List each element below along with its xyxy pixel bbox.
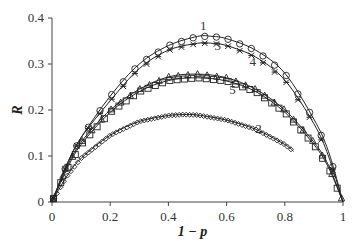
x-tick-label: 0.6 <box>218 209 235 224</box>
curve-label-4: 4 <box>250 54 257 69</box>
x-tick-label: 0.2 <box>102 209 118 224</box>
curve-label-5: 5 <box>229 82 236 97</box>
marker-asterisk <box>109 96 115 102</box>
y-tick-label: 0.4 <box>28 10 45 25</box>
marker-asterisk <box>120 84 126 90</box>
marker-asterisk <box>237 48 243 54</box>
x-tick-label: 1 <box>340 209 347 224</box>
y-tick-label: 0.3 <box>28 56 44 71</box>
marker-square <box>181 76 187 82</box>
series-line <box>52 43 343 202</box>
series-group <box>50 33 344 202</box>
marker-asterisk <box>178 44 184 50</box>
marker-asterisk <box>190 42 196 48</box>
series-4 <box>50 71 344 202</box>
marker-asterisk <box>225 43 231 49</box>
series-3 <box>50 41 343 203</box>
marker-asterisk <box>155 54 161 60</box>
marker-asterisk <box>132 71 138 77</box>
chart: 00.20.40.60.8100.10.20.30.41 − pR 13452 <box>0 0 359 241</box>
x-tick-label: 0.8 <box>277 209 293 224</box>
axes: 00.20.40.60.8100.10.20.30.41 − pR <box>10 10 346 239</box>
curve-label-2: 2 <box>255 121 262 136</box>
x-tick-label: 0.4 <box>160 209 177 224</box>
series-line <box>52 74 343 202</box>
y-axis-title: R <box>10 105 25 115</box>
y-tick-label: 0 <box>38 194 45 209</box>
marker-asterisk <box>202 41 208 47</box>
marker-asterisk <box>283 79 289 85</box>
marker-square <box>211 77 217 83</box>
y-tick-label: 0.1 <box>28 148 44 163</box>
marker-asterisk <box>144 61 150 67</box>
marker-circle <box>202 33 208 39</box>
x-tick-label: 0 <box>49 209 56 224</box>
curve-label-1: 1 <box>200 18 207 33</box>
y-tick-label: 0.2 <box>28 102 44 117</box>
marker-asterisk <box>260 60 266 66</box>
curve-label-3: 3 <box>215 38 222 53</box>
x-axis-title: 1 − p <box>178 224 207 239</box>
